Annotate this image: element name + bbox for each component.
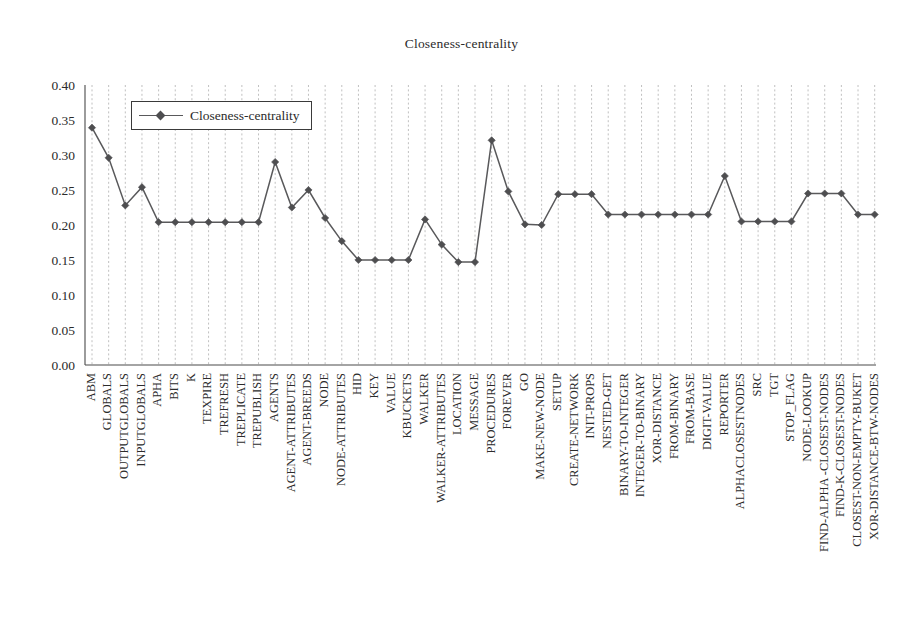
y-axis-tick-label: 0.25: [51, 183, 75, 198]
data-point-marker: [621, 211, 628, 218]
data-point-marker: [222, 219, 229, 226]
y-axis-tick-label: 0.00: [51, 358, 75, 373]
data-point-marker: [255, 219, 262, 226]
x-axis-tick-label: XOR-DISTANCE-BTW-NODES: [867, 373, 881, 540]
x-axis-tick-label: APHA: [150, 373, 164, 407]
data-point-marker: [488, 137, 495, 144]
x-axis-tick-label: SRC: [750, 373, 764, 396]
x-axis-tick-label: TGT: [767, 373, 781, 398]
x-axis-tick-label: CREATE-NETWORK: [567, 373, 581, 486]
x-axis-tick-label: OUTPUTGLOBALS: [117, 373, 131, 479]
x-axis-tick-label: DIGIT-VALUE: [700, 373, 714, 450]
y-axis-tick-label: 0.20: [51, 218, 75, 233]
data-point-marker: [405, 256, 412, 263]
data-point-marker: [755, 218, 762, 225]
x-axis-tick-label: AGENT-ATTRIBUTES: [284, 373, 298, 492]
data-point-marker: [188, 219, 195, 226]
data-point-marker: [538, 221, 545, 228]
x-axis-tick-label: NODE: [317, 373, 331, 407]
x-axis-tick-label: VALUE: [384, 373, 398, 413]
data-point-marker: [388, 256, 395, 263]
x-axis-tick-label: FROM-BASE: [683, 373, 697, 444]
data-point-marker: [671, 211, 678, 218]
data-point-marker: [521, 221, 528, 228]
data-point-marker: [688, 211, 695, 218]
x-axis-tick-label: AGENTS: [267, 373, 281, 422]
x-axis-tick-label: KBUCKETS: [400, 373, 414, 439]
x-axis-tick-label: TREFRESH: [217, 373, 231, 435]
data-point-marker: [788, 218, 795, 225]
chart-legend: Closeness-centrality: [131, 101, 312, 130]
y-axis-tick-label: 0.40: [51, 78, 75, 93]
y-axis-tick-label: 0.05: [51, 323, 75, 338]
chart-plot-area: 0.000.050.100.150.200.250.300.350.40ABMG…: [0, 0, 923, 632]
legend-entry-label: Closeness-centrality: [190, 108, 299, 124]
data-point-marker: [88, 124, 95, 131]
data-point-marker: [155, 219, 162, 226]
data-point-marker: [371, 256, 378, 263]
data-point-marker: [655, 211, 662, 218]
data-point-marker: [205, 219, 212, 226]
data-point-marker: [272, 158, 279, 165]
x-axis-tick-label: INPUTGLOBALS: [134, 373, 148, 467]
x-axis-tick-label: WALKER-ATTRIBUTES: [434, 373, 448, 503]
x-axis-tick-label: XOR-DISTANCE: [650, 373, 664, 464]
x-axis-tick-label: HID: [350, 373, 364, 395]
x-axis-tick-label: PROCEDURES: [484, 373, 498, 454]
x-axis-tick-label: INTEGER-TO-BINARY: [633, 373, 647, 497]
legend-entry: Closeness-centrality: [132, 102, 311, 129]
x-axis-tick-label: STOP_FLAG: [783, 373, 797, 442]
data-point-marker: [571, 191, 578, 198]
x-axis-tick-label: WALKER: [417, 372, 431, 424]
x-axis-tick-label: NODE-LOOKUP: [800, 373, 814, 462]
y-axis-tick-label: 0.35: [51, 113, 75, 128]
x-axis-tick-label: AGENT-BREEDS: [300, 373, 314, 466]
x-axis-tick-label: NESTED-GET: [600, 373, 614, 449]
x-axis-tick-label: GLOBALS: [100, 373, 114, 430]
data-point-marker: [738, 218, 745, 225]
legend-line-marker-icon: [139, 110, 183, 122]
chart-figure: Closeness-centrality 0.000.050.100.150.2…: [0, 0, 923, 632]
x-axis-tick-label: FIND-ALPHA -CLOSEST-NODES: [817, 373, 831, 552]
x-axis-tick-label: MESSAGE: [467, 373, 481, 431]
x-axis-tick-label: TEXPIRE: [200, 373, 214, 424]
x-axis-tick-label: TREPUBLISH: [250, 373, 264, 448]
x-axis-tick-label: NODE-ATTRIBUTES: [334, 373, 348, 486]
x-axis-tick-label: FIND-K-CLOSEST-NODES: [833, 373, 847, 517]
x-axis-tick-label: BITS: [167, 373, 181, 400]
x-axis-tick-label: BINARY-TO-INTEGER: [617, 372, 631, 496]
x-axis-tick-label: K: [184, 373, 198, 382]
x-axis-tick-label: TREPLICATE: [234, 373, 248, 446]
data-point-marker: [721, 172, 728, 179]
data-point-marker: [238, 219, 245, 226]
data-point-marker: [804, 190, 811, 197]
x-axis-tick-label: ABM: [84, 373, 98, 401]
x-axis-tick-label: INIT-PROPS: [583, 373, 597, 439]
y-axis-tick-label: 0.30: [51, 148, 75, 163]
x-axis-tick-label: ALPHACLOSESTNODES: [733, 373, 747, 509]
y-axis-tick-label: 0.15: [51, 253, 75, 268]
data-point-marker: [105, 154, 112, 161]
data-point-marker: [771, 218, 778, 225]
x-axis-tick-label: FOREVER: [500, 372, 514, 429]
x-axis-tick-label: SETUP: [550, 373, 564, 411]
x-axis-tick-label: KEY: [367, 373, 381, 399]
x-axis-tick-label: FROM-BINARY: [667, 373, 681, 459]
x-axis-tick-label: CLOSEST-NON-EMPTY-BUKET: [850, 373, 864, 547]
data-point-marker: [871, 211, 878, 218]
data-point-marker: [638, 211, 645, 218]
data-point-marker: [172, 219, 179, 226]
data-point-marker: [505, 188, 512, 195]
data-point-marker: [471, 259, 478, 266]
data-point-marker: [821, 190, 828, 197]
data-point-marker: [555, 191, 562, 198]
data-point-marker: [705, 211, 712, 218]
x-axis-tick-label: GO: [517, 373, 531, 391]
x-axis-tick-label: MAKE-NEW-NODE: [533, 373, 547, 480]
x-axis-tick-label: LOCATION: [450, 373, 464, 435]
x-axis-tick-label: REPORTER: [717, 372, 731, 435]
y-axis-tick-label: 0.10: [51, 288, 75, 303]
series-line-closeness-centrality: [92, 128, 875, 262]
